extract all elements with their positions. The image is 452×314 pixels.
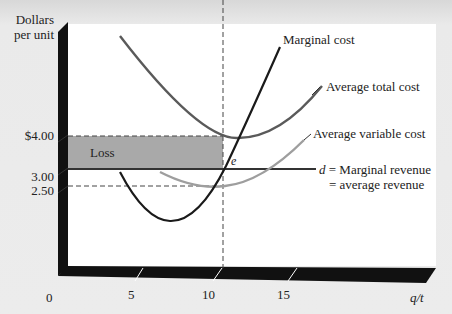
- y-axis-wall: [58, 22, 68, 276]
- d-label-line2: = average revenue: [329, 177, 424, 192]
- y-tick-4: $4.00: [0, 128, 54, 143]
- x-axis-label: q/t: [410, 290, 424, 305]
- chart-plot: [0, 0, 452, 314]
- loss-label: Loss: [90, 145, 115, 160]
- ylabel-line2: per unit: [0, 27, 54, 42]
- x-tick-0: 0: [46, 290, 53, 305]
- atc-label: Average total cost: [326, 79, 420, 94]
- avc-label: Average variable cost: [313, 126, 425, 141]
- x-tick-10: 10: [202, 287, 215, 302]
- y-tick-3: 3.00: [0, 169, 54, 184]
- d-label-line1: = Marginal revenue: [329, 162, 431, 177]
- y-axis-label: Dollars per unit: [0, 12, 54, 42]
- point-e-label: e: [231, 154, 236, 169]
- y-tick-2-5: 2.50: [0, 183, 54, 198]
- d-label: d = Marginal revenue: [319, 162, 431, 177]
- ylabel-line1: Dollars: [0, 12, 54, 27]
- x-axis-floor: [58, 266, 436, 283]
- chart: Dollars per unit $4.00 3.00 2.50 0 5 10 …: [0, 0, 452, 314]
- x-tick-5: 5: [128, 287, 135, 302]
- x-tick-15: 15: [277, 287, 290, 302]
- d-symbol: d: [319, 162, 326, 177]
- mc-label: Marginal cost: [283, 32, 355, 47]
